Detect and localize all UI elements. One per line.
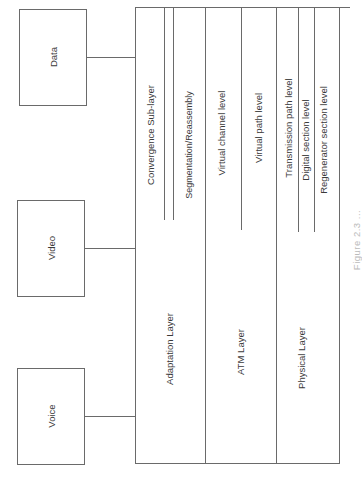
figure-caption: Figure 2.3 ... bbox=[351, 210, 362, 270]
divider-convergence-segmentation-a bbox=[164, 7, 165, 220]
sublayer-label-virtual-channel: Virtual channel level bbox=[216, 91, 227, 176]
sublayer-label-segmentation: Segmentation/Reassembly bbox=[184, 91, 194, 199]
layer-label-physical: Physical Layer bbox=[296, 327, 307, 389]
stack-bottom-border bbox=[135, 463, 340, 464]
connector-voice bbox=[84, 416, 135, 417]
stack-top-border bbox=[135, 7, 350, 8]
connector-data bbox=[86, 57, 135, 58]
divider-vc-vp bbox=[241, 7, 242, 230]
source-label-voice: Voice bbox=[46, 404, 57, 427]
sublayer-label-convergence: Convergence Sub-layer bbox=[145, 85, 156, 185]
divider-ds-rs bbox=[314, 7, 315, 232]
divider-convergence-segmentation-b bbox=[173, 7, 174, 220]
sublayer-label-virtual-path: Virtual path level bbox=[253, 93, 264, 163]
sublayer-label-regenerator-section: Regenerator section level bbox=[318, 86, 329, 194]
source-label-data: Data bbox=[48, 47, 59, 67]
source-label-video: Video bbox=[46, 236, 57, 260]
sublayer-label-transmission-path: Transmission path level bbox=[283, 78, 294, 177]
stack-left-border bbox=[135, 7, 136, 463]
layer-label-adaptation: Adaptation Layer bbox=[164, 313, 175, 385]
connector-video bbox=[84, 248, 135, 249]
divider-adaptation-atm bbox=[205, 7, 206, 463]
layer-label-atm: ATM Layer bbox=[235, 329, 246, 375]
divider-atm-physical bbox=[276, 7, 277, 463]
stack-right-border bbox=[339, 7, 340, 463]
sublayer-label-digital-section: Digital section level bbox=[300, 99, 311, 180]
